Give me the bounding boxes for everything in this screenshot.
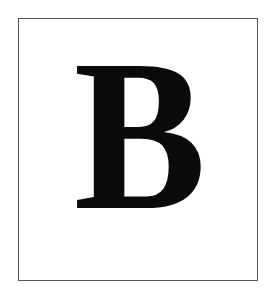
big-letter: B [74,15,207,254]
letter-card-graphic: B [0,0,277,304]
